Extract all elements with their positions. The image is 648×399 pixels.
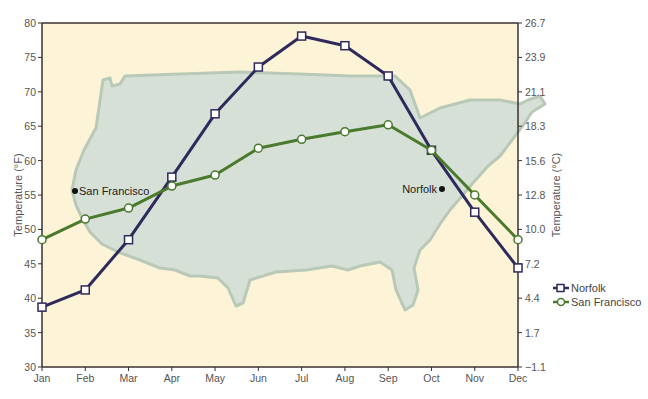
y-tick-label-left: 65	[24, 120, 36, 132]
data-point-circle	[427, 146, 435, 154]
legend-item: San Francisco	[553, 296, 641, 308]
y-tick-label-left: 55	[24, 189, 36, 201]
data-point-square	[384, 72, 392, 80]
data-point-circle	[38, 236, 46, 244]
y-tick-label-right: 26.7	[525, 17, 546, 29]
y-tick-label-left: 40	[24, 292, 36, 304]
legend-item: Norfolk	[553, 282, 606, 294]
data-point-square	[471, 208, 479, 216]
data-point-circle	[384, 121, 392, 129]
legend-label: Norfolk	[571, 282, 606, 294]
y-tick-label-right: 4.4	[525, 292, 540, 304]
data-point-square	[125, 236, 133, 244]
y-axis-title-left: Temperature (°F)	[12, 153, 24, 236]
data-point-circle	[81, 215, 89, 223]
x-tick-label: Aug	[336, 372, 355, 384]
data-point-circle	[125, 204, 133, 212]
data-point-square	[168, 173, 176, 181]
x-tick-label: Apr	[164, 372, 181, 384]
x-tick-label: Nov	[465, 372, 484, 384]
y-tick-label-left: 50	[24, 223, 36, 235]
y-tick-label-right: 18.3	[525, 120, 546, 132]
data-point-square	[254, 63, 262, 71]
city-label: Norfolk	[402, 183, 437, 195]
y-tick-label-left: 45	[24, 258, 36, 270]
x-tick-label: Feb	[76, 372, 94, 384]
y-tick-label-left: 70	[24, 86, 36, 98]
x-tick-label: Mar	[119, 372, 138, 384]
temperature-line-chart: 3035404550556065707580−1.11.74.47.210.01…	[0, 0, 648, 399]
y-tick-label-right: 10.0	[525, 223, 546, 235]
data-point-circle	[211, 171, 219, 179]
x-tick-label: Jun	[250, 372, 267, 384]
legend-label: San Francisco	[571, 296, 641, 308]
y-tick-label-left: 60	[24, 155, 36, 167]
city-dot	[439, 186, 445, 192]
x-tick-label: Oct	[423, 372, 439, 384]
data-point-square	[81, 286, 89, 294]
x-tick-label: Jan	[34, 372, 51, 384]
data-point-circle	[514, 236, 522, 244]
x-tick-label: Sep	[379, 372, 398, 384]
data-point-square	[38, 303, 46, 311]
city-label: San Francisco	[79, 185, 149, 197]
y-tick-label-right: 21.1	[525, 86, 546, 98]
y-tick-label-left: 80	[24, 17, 36, 29]
y-tick-label-right: −1.1	[525, 361, 546, 373]
data-point-square	[341, 42, 349, 50]
data-point-square	[298, 32, 306, 40]
data-point-square	[514, 264, 522, 272]
data-point-circle	[341, 128, 349, 136]
legend: NorfolkSan Francisco	[553, 282, 641, 308]
data-point-circle	[471, 191, 479, 199]
y-tick-label-right: 12.8	[525, 189, 546, 201]
y-tick-label-right: 1.7	[525, 327, 540, 339]
legend-square-marker-icon	[557, 285, 564, 292]
city-dot	[72, 188, 78, 194]
y-tick-label-left: 35	[24, 327, 36, 339]
x-tick-label: May	[205, 372, 226, 384]
y-tick-label-right: 15.6	[525, 155, 546, 167]
y-tick-label-right: 23.9	[525, 51, 546, 63]
y-tick-label-left: 75	[24, 51, 36, 63]
data-point-square	[211, 110, 219, 118]
legend-circle-marker-icon	[558, 299, 565, 306]
data-point-circle	[298, 135, 306, 143]
x-tick-label: Jul	[295, 372, 308, 384]
data-point-circle	[254, 144, 262, 152]
data-point-circle	[168, 182, 176, 190]
y-axis-title-right: Temperature (°C)	[550, 153, 562, 237]
y-tick-label-right: 7.2	[525, 258, 540, 270]
x-tick-label: Dec	[509, 372, 528, 384]
